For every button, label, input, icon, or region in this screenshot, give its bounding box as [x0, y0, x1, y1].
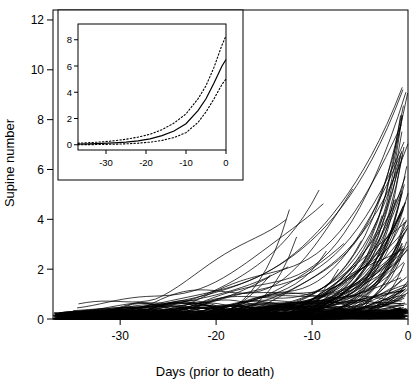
y-tick-label: 12 [31, 13, 45, 27]
y-tick-label: 4 [37, 213, 44, 227]
x-tick-label: -20 [207, 329, 225, 343]
y-tick-label: 0 [37, 313, 44, 327]
inset-y-tick-label: 8 [67, 34, 72, 45]
inset-y-tick-label: 6 [67, 61, 72, 72]
inset-y-tick-label: 0 [67, 139, 72, 150]
inset-outer-frame [58, 10, 243, 180]
figure-container: 024681012-30-20-100Days (prior to death)… [0, 0, 417, 384]
supine-number-chart: 024681012-30-20-100Days (prior to death)… [0, 0, 417, 384]
y-tick-label: 10 [31, 63, 45, 77]
y-tick-label: 2 [37, 263, 44, 277]
inset-x-tick-label: -20 [139, 157, 153, 168]
inset-x-tick-label: 0 [223, 157, 228, 168]
y-tick-label: 6 [37, 163, 44, 177]
x-tick-label: -30 [111, 329, 129, 343]
inset-panel: 02468-30-20-100 [58, 10, 243, 180]
y-axis-title: Supine number [2, 118, 17, 207]
x-axis-title: Days (prior to death) [156, 364, 275, 379]
inset-y-tick-label: 4 [67, 87, 72, 98]
x-tick-label: -10 [303, 329, 321, 343]
inset-y-tick-label: 2 [67, 113, 72, 124]
x-tick-label: 0 [405, 329, 412, 343]
inset-x-tick-label: -10 [179, 157, 193, 168]
y-tick-label: 8 [37, 113, 44, 127]
inset-x-tick-label: -30 [99, 157, 113, 168]
